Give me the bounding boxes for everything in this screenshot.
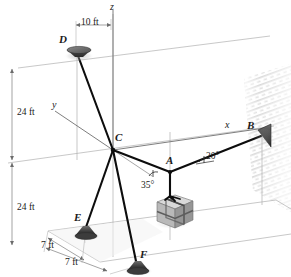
axis-label-y: y bbox=[52, 100, 56, 110]
anchor-F bbox=[123, 261, 153, 276]
junction-C bbox=[111, 148, 116, 153]
point-label-E: E bbox=[74, 212, 81, 223]
point-label-F: F bbox=[140, 249, 147, 260]
figure-canvas bbox=[0, 0, 291, 277]
anchor-D bbox=[64, 46, 94, 61]
point-label-C: C bbox=[115, 132, 122, 143]
x-axis-line bbox=[113, 128, 265, 150]
crate bbox=[154, 195, 193, 229]
dim-label-24ft-lower: 24 ft bbox=[17, 203, 35, 213]
y-axis-line bbox=[55, 111, 113, 150]
cable-C-E bbox=[85, 150, 113, 230]
dim-label-10ft: 10 ft bbox=[81, 18, 99, 28]
axis-label-z: z bbox=[110, 2, 114, 12]
point-label-D: D bbox=[59, 34, 67, 45]
dim-label-24ft-upper: 24 ft bbox=[17, 108, 35, 118]
angle-label-20: 20° bbox=[206, 152, 219, 162]
dim-label-7ft-upper: 7 ft bbox=[41, 241, 54, 251]
axis-label-x: x bbox=[225, 120, 229, 130]
axis-lines bbox=[55, 10, 265, 176]
statics-figure: z y x D C A B E F 10 ft 24 ft 24 ft 7 ft… bbox=[0, 0, 291, 277]
point-label-B: B bbox=[247, 120, 254, 131]
junction-A bbox=[168, 170, 172, 174]
cable-C-D bbox=[77, 53, 113, 150]
dim-label-7ft-lower: 7 ft bbox=[65, 258, 78, 268]
point-label-A: A bbox=[166, 155, 173, 166]
angle-label-35: 35° bbox=[141, 181, 154, 191]
